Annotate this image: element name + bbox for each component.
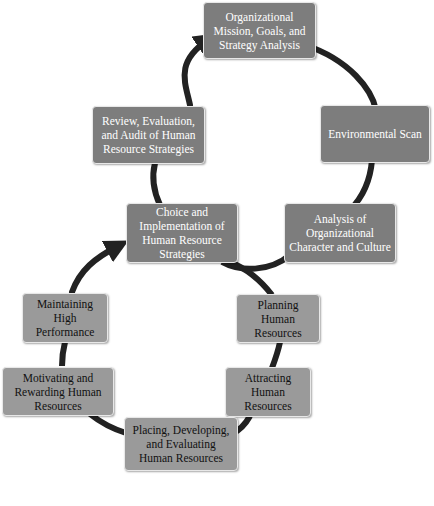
lower-loop-arrow-arc bbox=[72, 246, 118, 292]
node-maintaining: Maintaining High Performance bbox=[22, 293, 108, 343]
node-placing-label: Placing, Developing, and Evaluating Huma… bbox=[129, 423, 233, 465]
lower-loop-bottom-left-arc bbox=[90, 414, 126, 433]
node-planning: Planning Human Resources bbox=[236, 294, 320, 343]
node-choice: Choice and Implementation of Human Resou… bbox=[126, 203, 238, 263]
lower-loop-left-arc bbox=[62, 342, 65, 366]
node-environmental-scan-label: Environmental Scan bbox=[328, 127, 422, 141]
node-placing: Placing, Developing, and Evaluating Huma… bbox=[124, 417, 238, 471]
node-choice-label: Choice and Implementation of Human Resou… bbox=[131, 205, 233, 261]
node-review: Review, Evaluation, and Audit of Human R… bbox=[92, 106, 205, 164]
hr-strategy-cycle-diagram: Organizational Mission, Goals, and Strat… bbox=[0, 0, 434, 506]
node-attracting: Attracting Human Resources bbox=[225, 367, 311, 417]
node-analysis-label: Analysis of Organizational Character and… bbox=[289, 212, 391, 254]
node-mission: Organizational Mission, Goals, and Strat… bbox=[203, 2, 316, 59]
node-mission-label: Organizational Mission, Goals, and Strat… bbox=[208, 10, 311, 52]
node-attracting-label: Attracting Human Resources bbox=[230, 371, 306, 413]
node-motivating-label: Motivating and Rewarding Human Resources bbox=[7, 371, 109, 413]
node-motivating: Motivating and Rewarding Human Resources bbox=[2, 367, 114, 416]
node-review-label: Review, Evaluation, and Audit of Human R… bbox=[97, 114, 200, 156]
node-planning-label: Planning Human Resources bbox=[241, 298, 315, 340]
node-maintaining-label: Maintaining High Performance bbox=[27, 297, 103, 339]
node-analysis: Analysis of Organizational Character and… bbox=[284, 203, 396, 263]
lower-loop-right-arc bbox=[272, 342, 280, 368]
node-environmental-scan: Environmental Scan bbox=[320, 105, 430, 163]
upper-loop-left-arc bbox=[153, 163, 160, 205]
